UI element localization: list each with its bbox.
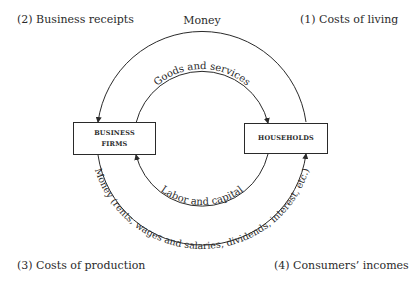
business-firms-line2: FIRMS [94,139,135,150]
money-income-label: Money (rents, wages and salaries, divide… [93,166,311,251]
labor-capital-label: Labor and capital [159,183,245,207]
households-label: HOUSEHOLDS [258,133,314,144]
business-receipts-label: (2) Business receipts [17,13,134,26]
costs-of-living-label: (1) Costs of living [300,13,398,26]
business-firms-line1: BUSINESS [94,128,135,139]
money-label-top: Money [183,14,221,27]
goods-services-label: Goods and services [151,60,252,88]
households-node: HOUSEHOLDS [244,123,328,154]
money-flow-top-arc [98,31,306,122]
consumers-incomes-label: (4) Consumers’ incomes [274,259,409,272]
business-firms-node: BUSINESS FIRMS [73,122,156,155]
costs-of-production-label: (3) Costs of production [17,259,145,272]
